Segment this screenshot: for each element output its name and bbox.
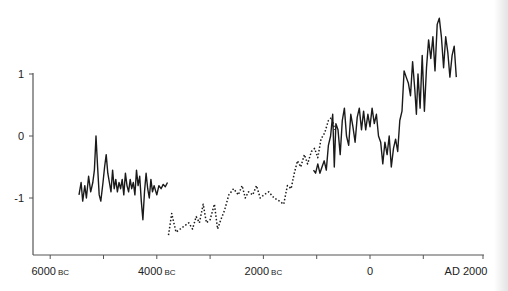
x-tick-label: 2000BC bbox=[245, 265, 283, 277]
series-early-record bbox=[79, 136, 168, 220]
x-tick-label: 0 bbox=[367, 265, 373, 277]
series-middle-record bbox=[169, 117, 335, 235]
series-late-record bbox=[314, 18, 457, 173]
chart: 10-1 6000BC4000BC2000BC0AD 2000 bbox=[0, 0, 508, 291]
x-tick-label: AD 2000 bbox=[445, 265, 488, 277]
x-ticks: 6000BC4000BC2000BC0AD 2000 bbox=[31, 255, 487, 277]
y-tick-label: -1 bbox=[14, 192, 24, 204]
page-edge-shadow bbox=[494, 0, 508, 291]
x-tick-label: 6000BC bbox=[31, 265, 69, 277]
y-tick-label: 1 bbox=[18, 68, 24, 80]
x-tick-label: 4000BC bbox=[138, 265, 176, 277]
y-ticks: 10-1 bbox=[14, 68, 33, 204]
data-series bbox=[79, 18, 456, 235]
y-tick-label: 0 bbox=[18, 130, 24, 142]
